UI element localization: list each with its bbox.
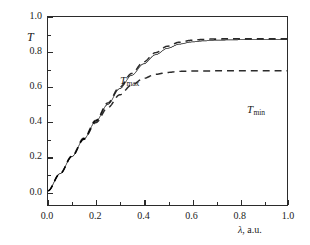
x-tick-major-1.0 bbox=[288, 200, 289, 205]
y-tick-label-0.8: 0.8 bbox=[14, 46, 42, 56]
y-tick-label-0.0: 0.0 bbox=[14, 187, 42, 197]
chart-figure: T 1.0 0.8 0.6 0.4 0.2 0.0 0.0 0.2 0.4 0.… bbox=[0, 0, 310, 245]
envelope-min-curve bbox=[48, 71, 287, 191]
x-axis-title: λ, a.u. bbox=[238, 224, 262, 235]
y-tick-label-0.2: 0.2 bbox=[14, 151, 42, 161]
y-tick-label-0.6: 0.6 bbox=[14, 81, 42, 91]
x-tick-label-1.0: 1.0 bbox=[282, 211, 295, 221]
annotation-tmax: Tmax bbox=[120, 74, 139, 86]
y-tick-label-1.0: 1.0 bbox=[14, 11, 42, 21]
y-axis-title: T bbox=[27, 30, 34, 45]
x-axis-title-units: , a.u. bbox=[242, 224, 261, 235]
annotation-tmax-sub: max bbox=[126, 79, 139, 88]
annotation-tmin: Tmin bbox=[247, 103, 265, 115]
x-tick-label-0.4: 0.4 bbox=[137, 211, 150, 221]
x-tick-label-0.6: 0.6 bbox=[185, 211, 198, 221]
x-tick-label-0.8: 0.8 bbox=[234, 211, 247, 221]
x-tick-label-0.2: 0.2 bbox=[89, 211, 102, 221]
plot-area: Tmax Tmin bbox=[47, 16, 288, 206]
annotation-tmin-sub: min bbox=[253, 108, 265, 117]
x-tick-label-0.0: 0.0 bbox=[41, 211, 54, 221]
y-tick-label-0.4: 0.4 bbox=[14, 116, 42, 126]
transmission-curve bbox=[48, 39, 287, 190]
